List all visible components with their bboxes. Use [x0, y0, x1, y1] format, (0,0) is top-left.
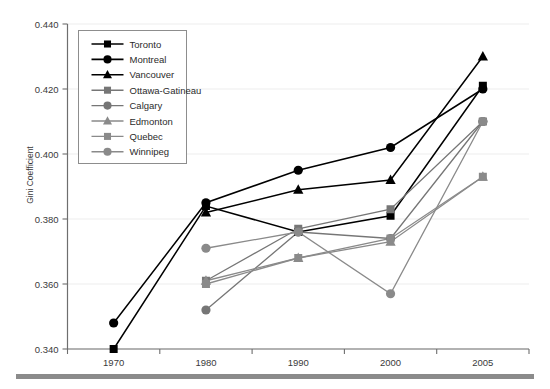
- data-point-marker-circle: [109, 318, 118, 327]
- series-line-quebec: [206, 177, 483, 284]
- data-point-marker-circle: [201, 305, 210, 314]
- series-line-winnipeg: [206, 122, 483, 294]
- data-point-marker-circle: [478, 117, 487, 126]
- y-axis-tick-labels-group: 0.3400.3600.3800.4000.4200.440: [35, 19, 59, 355]
- x-axis-tick-label: 2005: [472, 357, 493, 368]
- legend-label-toronto[interactable]: Toronto: [130, 39, 162, 50]
- data-point-marker-circle: [201, 198, 210, 207]
- legend-label-calgary[interactable]: Calgary: [130, 100, 163, 111]
- x-axis-tick-label: 1970: [103, 357, 124, 368]
- data-point-marker-square: [387, 205, 395, 213]
- y-axis-tick-label: 0.440: [35, 19, 59, 30]
- x-axis-ticks-group: [68, 349, 530, 354]
- gini-coefficient-line-chart: 0.3400.3600.3800.4000.4200.440 197019801…: [0, 0, 550, 389]
- y-axis-tick-label: 0.400: [35, 149, 59, 160]
- data-point-marker-square: [110, 345, 118, 353]
- data-point-marker-square: [479, 173, 487, 181]
- y-axis-tick-label: 0.360: [35, 279, 59, 290]
- data-point-marker-circle: [386, 143, 395, 152]
- legend-label-ottawa-gatineau[interactable]: Ottawa-Gatineau: [130, 85, 202, 96]
- data-point-marker-circle: [386, 289, 395, 298]
- series-line-vancouver: [206, 57, 483, 213]
- legend-box: [79, 31, 187, 164]
- data-point-marker-square: [104, 133, 111, 140]
- data-point-marker-square: [104, 87, 111, 94]
- bottom-divider-rule: [16, 374, 534, 379]
- data-point-marker-circle: [294, 227, 303, 236]
- x-axis-tick-label: 1980: [195, 357, 216, 368]
- data-point-marker-circle: [103, 55, 111, 63]
- data-point-marker-triangle: [478, 51, 488, 60]
- y-axis-tick-label: 0.380: [35, 214, 59, 225]
- data-point-marker-circle: [294, 166, 303, 175]
- legend-label-quebec[interactable]: Quebec: [130, 131, 164, 142]
- legend-label-vancouver[interactable]: Vancouver: [130, 69, 175, 80]
- data-point-marker-circle: [103, 148, 111, 156]
- x-axis-tick-label: 1990: [288, 357, 309, 368]
- data-point-marker-circle: [478, 84, 487, 93]
- legend-label-edmonton[interactable]: Edmonton: [130, 116, 173, 127]
- legend-label-winnipeg[interactable]: Winnipeg: [130, 146, 170, 157]
- series-line-calgary: [206, 122, 483, 311]
- data-point-marker-square: [202, 280, 210, 288]
- data-point-marker-square: [104, 40, 111, 47]
- x-axis-tick-labels-group: 19701980199020002005: [103, 357, 493, 368]
- data-point-marker-square: [387, 235, 395, 243]
- legend-label-montreal[interactable]: Montreal: [130, 54, 167, 65]
- series-line-edmonton: [206, 177, 483, 281]
- y-axis-ticks-group: [63, 24, 68, 349]
- y-axis-tick-label: 0.340: [35, 344, 59, 355]
- y-axis-tick-label: 0.420: [35, 84, 59, 95]
- x-axis-tick-label: 2000: [380, 357, 401, 368]
- data-point-marker-circle: [201, 244, 210, 253]
- data-point-marker-square: [294, 254, 302, 262]
- y-axis-title: Gini Coefficient: [25, 146, 35, 204]
- chart-canvas: 0.3400.3600.3800.4000.4200.440 197019801…: [0, 0, 550, 389]
- data-point-marker-circle: [103, 102, 111, 110]
